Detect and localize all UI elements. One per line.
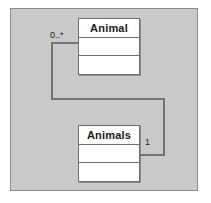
- uml-class-animals[interactable]: Animals: [78, 125, 140, 182]
- uml-class-animals-operations: [79, 163, 139, 181]
- uml-class-animal-operations: [79, 56, 139, 74]
- uml-class-animals-name: Animals: [79, 126, 139, 145]
- multiplicity-label-source: 0..*: [50, 31, 64, 40]
- diagram-canvas: Animal Animals 0..* 1: [0, 0, 211, 203]
- uml-class-animals-attributes: [79, 145, 139, 163]
- uml-class-animal[interactable]: Animal: [78, 18, 140, 75]
- multiplicity-label-target: 1: [145, 138, 150, 147]
- uml-class-animal-attributes: [79, 38, 139, 56]
- uml-class-animal-name: Animal: [79, 19, 139, 38]
